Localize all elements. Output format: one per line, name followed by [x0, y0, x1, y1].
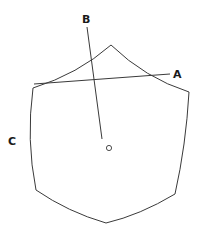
label-a: A: [173, 68, 182, 81]
label-c: C: [8, 135, 16, 148]
shield-diagram: A B C: [0, 0, 200, 233]
line-a: [34, 74, 170, 84]
label-b: B: [82, 13, 90, 26]
center-point-marker: [106, 145, 111, 150]
shield-outline: [30, 45, 189, 223]
line-b: [87, 27, 102, 139]
